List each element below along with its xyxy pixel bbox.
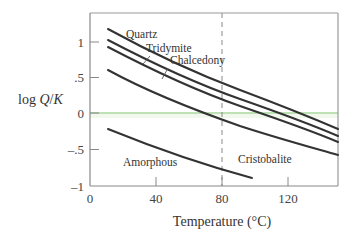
y-tick-label-0: 0 <box>78 106 85 121</box>
y-tick-label-1: 1 <box>78 35 85 50</box>
quartz-label: Quartz <box>126 28 157 40</box>
x-axis-ticks <box>156 177 288 186</box>
x-tick-label-120: 120 <box>278 191 298 206</box>
amorphous-label: Amorphous <box>123 156 178 169</box>
y-axis-label: log Q/K <box>18 92 63 107</box>
chalcedony-label: Chalcedony <box>170 54 225 67</box>
y-axis-ticks <box>90 42 99 150</box>
cristobalite-label: Cristobalite <box>238 153 292 165</box>
amorphous-curve <box>108 129 252 178</box>
x-tick-label-80: 80 <box>216 191 229 206</box>
y-tick-label-neg0.5: –.5 <box>67 142 84 157</box>
chart-svg: 1 .5 0 –.5 –1 0 40 80 120 Temperature (°… <box>0 0 353 239</box>
x-tick-label-0: 0 <box>87 191 94 206</box>
y-tick-label-0.5: .5 <box>74 70 84 85</box>
x-tick-label-40: 40 <box>150 191 163 206</box>
x-axis-label: Temperature (°C) <box>173 214 272 230</box>
y-tick-label-neg1: –1 <box>70 179 84 194</box>
